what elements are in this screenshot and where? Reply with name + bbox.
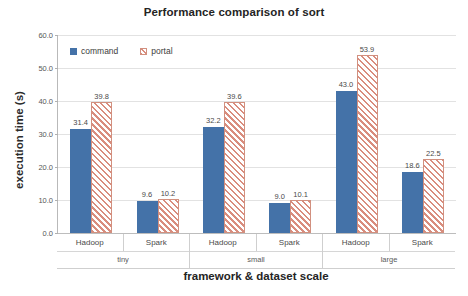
framework-label-row: HadoopSparkHadoopSparkHadoopSpark — [57, 234, 455, 251]
gridline — [58, 68, 456, 69]
bar-command-4: 43.0 — [336, 91, 357, 233]
framework-label-spark-3: Spark — [257, 234, 324, 251]
framework-label-hadoop-4: Hadoop — [323, 234, 390, 251]
gridline — [58, 200, 456, 201]
bar-value-label: 43.0 — [339, 80, 354, 89]
framework-label-spark-1: Spark — [124, 234, 191, 251]
bar-value-label: 31.4 — [73, 118, 88, 127]
y-tick-label: 40.0 — [9, 97, 53, 106]
scale-label-tiny: tiny — [57, 251, 190, 268]
scale-label-large: large — [323, 251, 455, 268]
bar-command-5: 18.6 — [402, 172, 423, 233]
category-axis: HadoopSparkHadoopSparkHadoopSpark tinysm… — [57, 234, 455, 268]
y-tick-label: 50.0 — [9, 64, 53, 73]
bar-chart: Performance comparison of sort execution… — [0, 0, 468, 296]
y-tick-mark — [55, 35, 58, 36]
y-tick-label: 60.0 — [9, 31, 53, 40]
y-tick-mark — [55, 134, 58, 135]
framework-label-hadoop-0: Hadoop — [57, 234, 124, 251]
bar-value-label: 10.1 — [293, 190, 308, 199]
gridline — [58, 101, 456, 102]
chart-legend: command portal — [70, 46, 173, 56]
bar-value-label: 22.5 — [426, 149, 441, 158]
bar-command-1: 9.6 — [137, 201, 158, 233]
bar-value-label: 18.6 — [405, 161, 420, 170]
y-tick-mark — [55, 167, 58, 168]
bar-value-label: 9.6 — [142, 190, 152, 199]
framework-label-hadoop-2: Hadoop — [190, 234, 257, 251]
bar-value-label: 9.0 — [274, 192, 284, 201]
legend-swatch-command-icon — [70, 48, 77, 55]
bar-value-label: 53.9 — [360, 45, 375, 54]
bar-portal-2: 39.6 — [224, 102, 245, 233]
y-tick-label: 0.0 — [9, 229, 53, 238]
y-tick-mark — [55, 101, 58, 102]
y-tick-label: 20.0 — [9, 163, 53, 172]
bar-command-0: 31.4 — [70, 129, 91, 233]
y-tick-mark — [55, 68, 58, 69]
framework-label-spark-5: Spark — [390, 234, 456, 251]
bar-value-label: 39.6 — [227, 92, 242, 101]
bar-portal-5: 22.5 — [423, 159, 444, 233]
bar-command-3: 9.0 — [269, 203, 290, 233]
chart-title: Performance comparison of sort — [0, 6, 468, 18]
legend-swatch-portal-icon — [140, 48, 147, 55]
bar-portal-4: 53.9 — [357, 55, 378, 233]
y-tick-label: 10.0 — [9, 196, 53, 205]
gridline — [58, 35, 456, 36]
legend-label-command: command — [81, 46, 118, 56]
bar-command-2: 32.2 — [203, 127, 224, 233]
scale-label-row: tinysmalllarge — [57, 251, 455, 268]
scale-label-small: small — [190, 251, 323, 268]
bar-value-label: 10.2 — [161, 189, 176, 198]
bar-portal-3: 10.1 — [290, 200, 311, 233]
gridline — [58, 167, 456, 168]
y-tick-mark — [55, 200, 58, 201]
plot-area: 0.010.020.030.040.050.060.031.439.89.610… — [57, 35, 456, 233]
legend-entry-command: command — [70, 46, 118, 56]
y-tick-label: 30.0 — [9, 130, 53, 139]
gridline — [58, 134, 456, 135]
bar-portal-0: 39.8 — [91, 102, 112, 233]
legend-entry-portal: portal — [140, 46, 172, 56]
bar-portal-1: 10.2 — [158, 199, 179, 233]
axis-bottom-rule — [57, 268, 455, 269]
bar-value-label: 32.2 — [206, 116, 221, 125]
x-axis-title: framework & dataset scale — [57, 270, 455, 282]
bar-value-label: 39.8 — [94, 92, 109, 101]
legend-label-portal: portal — [151, 46, 172, 56]
